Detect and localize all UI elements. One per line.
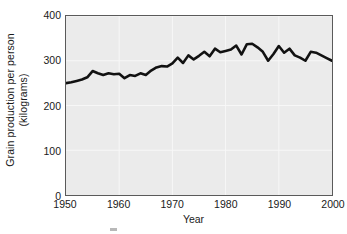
chart-figure: Grain production per person (kilograms) … — [0, 0, 347, 234]
y-axis-label-line2: (kilograms) — [16, 33, 29, 166]
y-tick-label: 400 — [33, 9, 61, 21]
x-tick-label: 1950 — [45, 198, 85, 210]
x-tick-label: 2000 — [313, 198, 347, 210]
plot-canvas — [66, 16, 332, 195]
y-tick-label: 100 — [33, 145, 61, 157]
plot-area — [65, 15, 333, 196]
y-tick-label: 200 — [33, 100, 61, 112]
grid-lines — [66, 16, 332, 195]
x-tick-label: 1990 — [259, 198, 299, 210]
data-line — [66, 44, 332, 83]
x-tick-label: 1960 — [99, 198, 139, 210]
x-tick-label: 1970 — [152, 198, 192, 210]
y-axis-label-line1: Grain production per person — [4, 33, 17, 166]
page-artifact-mark — [110, 228, 117, 231]
y-tick-label: 300 — [33, 54, 61, 66]
x-axis-label: Year — [0, 213, 347, 225]
x-axis-ticks: 195019601970198019902000 — [0, 198, 347, 214]
y-axis-label: Grain production per person (kilograms) — [0, 0, 32, 200]
x-tick-label: 1980 — [206, 198, 246, 210]
x-axis-label-text: Year — [143, 213, 204, 225]
data-series-group — [66, 44, 332, 83]
